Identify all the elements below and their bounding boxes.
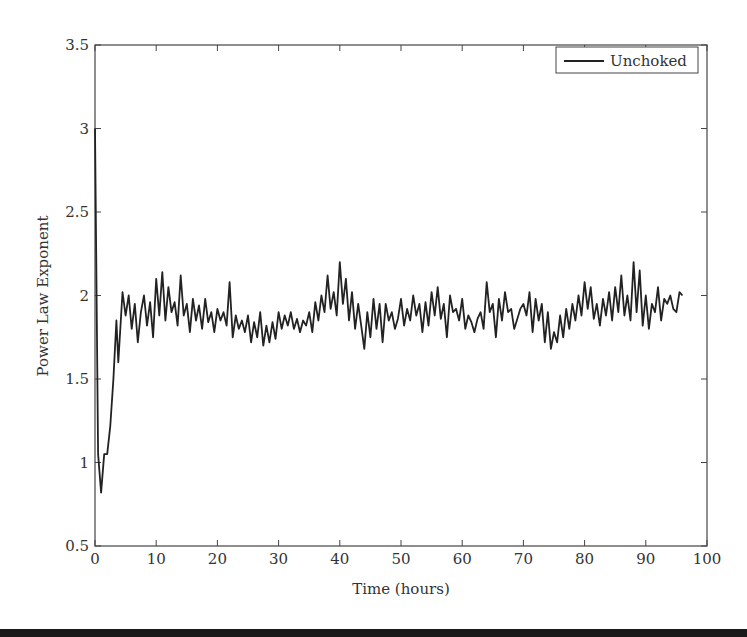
x-tick-label: 30 [269, 550, 288, 568]
line-chart: 0102030405060708090100 0.511.522.533.5 U… [0, 0, 747, 637]
x-tick-label: 0 [90, 550, 100, 568]
y-tick-label: 0.5 [65, 537, 89, 555]
x-tick-label: 20 [208, 550, 227, 568]
x-tick-label: 100 [693, 550, 722, 568]
x-axis-label: Time (hours) [352, 580, 450, 598]
x-tick-label: 40 [330, 550, 349, 568]
x-tick-label: 80 [575, 550, 594, 568]
x-tick-label: 10 [147, 550, 166, 568]
y-tick-label: 2.5 [65, 203, 89, 221]
y-tick-label: 1.5 [65, 370, 89, 388]
plot-area: 0102030405060708090100 0.511.522.533.5 [65, 36, 721, 568]
series-line-unchoked [95, 129, 683, 493]
y-tick-label: 2 [79, 287, 89, 305]
legend-label: Unchoked [610, 52, 687, 70]
x-tick-label: 50 [391, 550, 410, 568]
y-axis-label: Power Law Exponent [34, 216, 52, 377]
y-tick-label: 3.5 [65, 36, 89, 54]
x-tick-label: 70 [514, 550, 533, 568]
y-tick-label: 1 [79, 454, 89, 472]
y-tick-label: 3 [79, 120, 89, 138]
x-tick-label: 90 [636, 550, 655, 568]
legend: Unchoked [556, 47, 698, 73]
bottom-border-bar [0, 629, 747, 637]
x-tick-label: 60 [453, 550, 472, 568]
